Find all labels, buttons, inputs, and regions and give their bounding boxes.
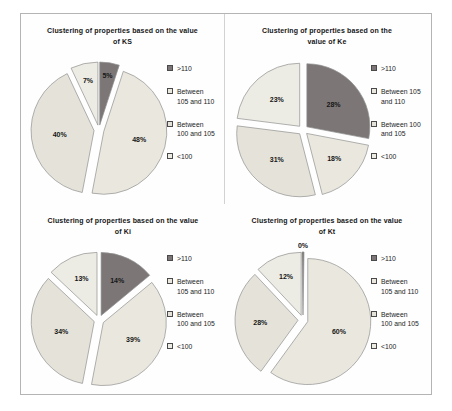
legend-item: <100 (167, 342, 215, 352)
legend-kt: >110Between105 and 110Between100 and 105… (371, 254, 419, 352)
chart-title-ki: Clustering of properties based on the va… (21, 216, 225, 237)
legend-label: Between100 and 105 (381, 310, 419, 330)
slice-percent-label: 40% (53, 131, 68, 138)
legend-item: Between100 and 105 (371, 310, 419, 330)
legend-swatch-icon (371, 65, 377, 71)
legend-swatch-icon (167, 343, 173, 349)
slice-percent-label: 34% (54, 328, 69, 335)
legend-item: >110 (167, 64, 215, 74)
chart-title-line: of Kt (225, 227, 429, 238)
legend-label: <100 (177, 342, 192, 352)
figure-panel: Clustering of properties based on the va… (20, 13, 432, 395)
slice-percent-label: 18% (327, 155, 342, 162)
legend-item: Between105 and 110 (167, 277, 215, 297)
slice-percent-label: 28% (253, 319, 268, 326)
slice-percent-label: 60% (332, 328, 347, 335)
slice-percent-label: 48% (132, 136, 147, 143)
legend-swatch-icon (167, 311, 173, 317)
legend-swatch-icon (371, 121, 377, 127)
chart-title-line: of Ki (21, 227, 225, 238)
legend-swatch-icon (167, 278, 173, 284)
legend-swatch-icon (167, 255, 173, 261)
legend-label: <100 (177, 152, 192, 162)
pie-ke: 28%18%31%23% (231, 52, 381, 204)
legend-item: >110 (371, 64, 421, 74)
pie-kt: 0%60%28%12% (231, 242, 381, 394)
legend-item: Between100 and 105 (167, 310, 215, 330)
legend-swatch-icon (371, 343, 377, 349)
legend-item: >110 (167, 254, 215, 264)
pie-ks: 5%48%40%7% (27, 52, 177, 204)
chart-title-line: value of Ke (225, 37, 429, 48)
slice-percent-label: 28% (327, 101, 342, 108)
legend-label: Between 100and 105 (381, 120, 421, 140)
chart-title-ke: Clustering of properties based on the va… (225, 26, 429, 47)
legend-swatch-icon (167, 153, 173, 159)
slice-percent-label: 5% (102, 72, 113, 79)
chart-title-line: Clustering of properties based on the va… (225, 216, 429, 227)
pie-slice (237, 63, 300, 126)
legend-label: Between100 and 105 (177, 120, 215, 140)
slice-percent-label: 13% (74, 275, 89, 282)
pie-slice (307, 133, 369, 194)
legend-item: Between 100and 105 (371, 120, 421, 140)
legend-label: Between105 and 110 (177, 277, 214, 297)
legend-item: Between105 and 110 (371, 277, 419, 297)
legend-swatch-icon (371, 311, 377, 317)
slice-percent-label: 7% (83, 77, 94, 84)
legend-label: Between100 and 105 (177, 310, 215, 330)
slice-percent-label: 0% (298, 242, 309, 249)
legend-label: >110 (381, 254, 396, 264)
chart-ki: Clustering of properties based on the va… (21, 204, 225, 392)
legend-label: <100 (381, 152, 396, 162)
legend-label: Between105 and 110 (177, 87, 214, 107)
legend-label: Between 105and 110 (381, 87, 421, 107)
legend-swatch-icon (371, 88, 377, 94)
legend-label: >110 (177, 254, 192, 264)
slice-percent-label: 31% (270, 156, 285, 163)
slice-percent-label: 23% (270, 96, 285, 103)
legend-item: >110 (371, 254, 419, 264)
chart-title-line: of KS (21, 37, 224, 48)
legend-ke: >110Between 105and 110Between 100and 105… (371, 64, 421, 162)
chart-kt: Clustering of properties based on the va… (225, 204, 429, 392)
legend-swatch-icon (371, 255, 377, 261)
legend-item: <100 (371, 152, 421, 162)
legend-label: <100 (381, 342, 396, 352)
slice-percent-label: 14% (110, 277, 125, 284)
legend-label: >110 (177, 64, 192, 74)
legend-swatch-icon (167, 88, 173, 94)
legend-item: Between 105and 110 (371, 87, 421, 107)
chart-title-line: Clustering of properties based on the (225, 26, 429, 37)
legend-swatch-icon (371, 153, 377, 159)
chart-title-line: Clustering of properties based on the va… (21, 26, 224, 37)
chart-title-kt: Clustering of properties based on the va… (225, 216, 429, 237)
legend-item: Between100 and 105 (167, 120, 215, 140)
legend-item: <100 (167, 152, 215, 162)
legend-label: >110 (381, 64, 396, 74)
legend-ks: >110Between105 and 110Between100 and 105… (167, 64, 215, 162)
chart-ks: Clustering of properties based on the va… (21, 14, 225, 204)
slice-percent-label: 12% (279, 273, 294, 280)
legend-swatch-icon (167, 65, 173, 71)
chart-grid: Clustering of properties based on the va… (21, 14, 431, 394)
legend-item: Between105 and 110 (167, 87, 215, 107)
chart-ke: Clustering of properties based on the va… (225, 14, 429, 204)
chart-title-ks: Clustering of properties based on the va… (21, 26, 224, 47)
legend-ki: >110Between105 and 110Between100 and 105… (167, 254, 215, 352)
chart-title-line: Clustering of properties based on the va… (21, 216, 225, 227)
legend-swatch-icon (167, 121, 173, 127)
legend-swatch-icon (371, 278, 377, 284)
pie-ki: 14%39%34%13% (27, 242, 177, 394)
legend-item: <100 (371, 342, 419, 352)
slice-percent-label: 39% (126, 336, 141, 343)
legend-label: Between105 and 110 (381, 277, 418, 297)
pie-slice (302, 252, 304, 315)
